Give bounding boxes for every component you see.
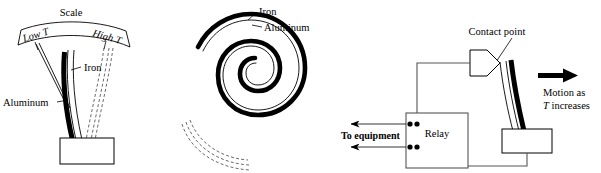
figure-root: Scale Low T High T — [0, 0, 601, 173]
panel-left-group: Scale Low T High T — [3, 7, 130, 164]
spiral-unwound-outline — [182, 120, 250, 170]
aluminum-label-left: Aluminum — [3, 97, 49, 108]
wire-contact-to-relay — [417, 63, 470, 121]
diagram-canvas: Scale Low T High T — [0, 0, 601, 173]
high-temperature-label: High T — [90, 27, 123, 46]
motion-arrow-icon — [538, 69, 578, 83]
relay-box — [406, 113, 468, 168]
relay-label: Relay — [425, 128, 450, 139]
relay-terminal-bottom-right — [414, 144, 419, 149]
motion-label-line1: Motion as — [543, 87, 585, 98]
scale-label: Scale — [60, 7, 83, 18]
iron-label-left: Iron — [84, 62, 102, 73]
relay-terminal-bottom-left — [407, 144, 412, 149]
panel-right-group: Contact point Motion as T in — [341, 26, 590, 168]
motion-label-line2: T increases — [543, 100, 590, 111]
strip-base-block — [60, 138, 114, 164]
iron-label-spiral: Iron — [259, 6, 277, 17]
panel-middle-group: Iron Aluminum — [182, 6, 310, 170]
relay-terminal-top-left — [407, 121, 412, 126]
contact-point-label: Contact point — [469, 26, 526, 37]
relay-terminal-top-right — [414, 121, 419, 126]
aluminum-label-spiral: Aluminum — [264, 22, 310, 33]
to-equipment-label: To equipment — [341, 130, 400, 141]
motion-label-rest: increases — [549, 100, 590, 111]
strip-base-block-right — [502, 129, 552, 153]
contact-wedge — [470, 50, 500, 76]
